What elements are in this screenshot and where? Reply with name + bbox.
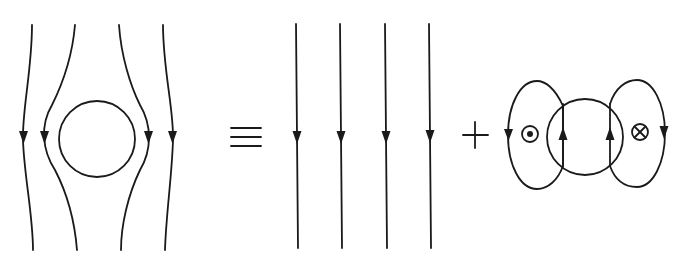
dipole-loop-left (508, 81, 563, 189)
dipole-field-panel (504, 80, 669, 189)
diagram-canvas (0, 0, 687, 256)
distorted-field-panel (19, 25, 177, 250)
plus-sign (463, 122, 488, 148)
arrow-down-icon (660, 126, 669, 139)
arrow-down-icon (40, 131, 49, 144)
arrow-down-icon (168, 131, 177, 144)
field-line (119, 25, 149, 250)
field-line (44, 25, 77, 250)
arrow-up-icon (606, 127, 615, 140)
equivalence-sign (231, 128, 261, 146)
arrow-down-icon (19, 131, 28, 144)
sphere-circle (59, 101, 135, 177)
arrow-down-icon (504, 129, 513, 141)
into-page-icon (632, 124, 648, 140)
arrow-down-icon (337, 131, 346, 144)
arrow-down-icon (144, 131, 153, 144)
out-of-page-icon (522, 126, 538, 142)
uniform-field-panel (293, 24, 435, 248)
arrow-down-icon (382, 131, 391, 144)
arrow-up-icon (559, 127, 568, 140)
arrow-down-icon (426, 130, 435, 143)
arrow-down-icon (293, 131, 302, 144)
